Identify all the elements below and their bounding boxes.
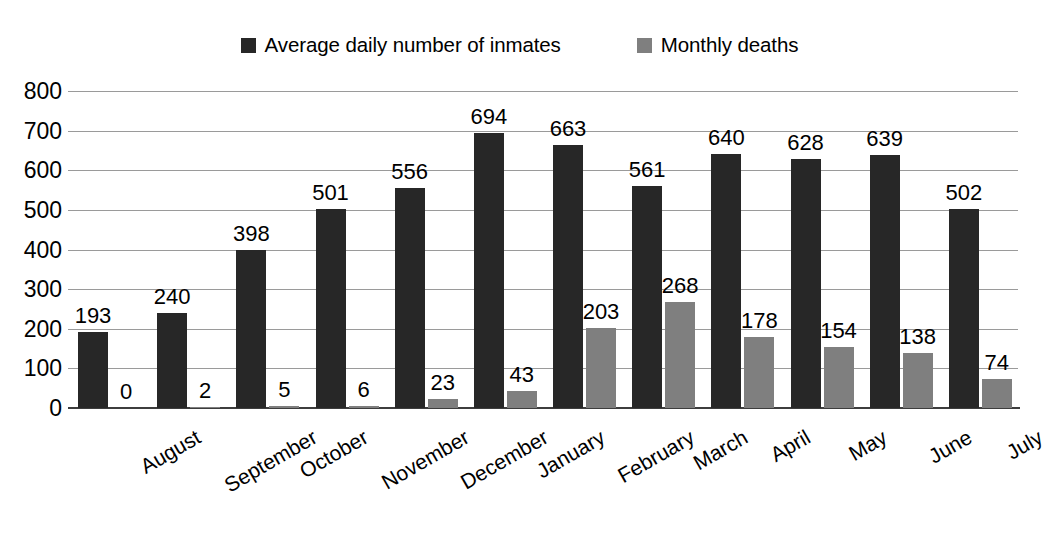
bar-group: 663203 xyxy=(553,91,616,408)
chart-legend: Average daily number of inmates Monthly … xyxy=(0,30,1039,60)
bar-value-label-deaths: 43 xyxy=(510,364,534,386)
bar-deaths xyxy=(586,328,616,408)
y-axis: 0100200300400500600700800 xyxy=(0,91,62,408)
bar-inmates xyxy=(553,145,583,408)
bar-group: 69443 xyxy=(474,91,537,408)
legend-label-inmates: Average daily number of inmates xyxy=(265,35,561,56)
bar-inmates xyxy=(949,209,979,408)
bar-value-label-inmates: 398 xyxy=(233,223,270,245)
x-axis-category-label: June xyxy=(925,426,975,467)
bar-inmates xyxy=(791,159,821,408)
bar-value-label-inmates: 556 xyxy=(391,161,428,183)
bar-value-label-inmates: 639 xyxy=(866,128,903,150)
bar-value-label-deaths: 5 xyxy=(278,379,290,401)
y-axis-tick-label: 0 xyxy=(4,397,62,420)
bar-value-label-inmates: 193 xyxy=(75,305,112,327)
bar-value-label-inmates: 561 xyxy=(629,159,666,181)
y-axis-tick-label: 200 xyxy=(4,317,62,340)
bar-inmates xyxy=(632,186,662,408)
bar-value-label-deaths: 178 xyxy=(741,310,778,332)
bar-deaths xyxy=(744,337,774,408)
bar-value-label-deaths: 2 xyxy=(199,380,211,402)
y-axis-tick-label: 400 xyxy=(4,238,62,261)
bar-deaths xyxy=(507,391,537,408)
y-axis-tick-label: 100 xyxy=(4,357,62,380)
bar-group: 561268 xyxy=(632,91,695,408)
bar-value-label-deaths: 74 xyxy=(985,352,1009,374)
legend-swatch-deaths xyxy=(637,38,652,53)
bar-value-label-inmates: 628 xyxy=(787,132,824,154)
bar-group: 50274 xyxy=(949,91,1012,408)
bar-value-label-deaths: 6 xyxy=(357,379,369,401)
legend-swatch-inmates xyxy=(241,38,256,53)
x-axis-category-label: August xyxy=(136,426,203,477)
legend-label-deaths: Monthly deaths xyxy=(661,35,799,56)
bar-deaths xyxy=(665,302,695,408)
x-axis-category-label: July xyxy=(1003,426,1046,463)
bar-deaths xyxy=(428,399,458,408)
y-axis-tick-label: 300 xyxy=(4,278,62,301)
y-axis-tick-label: 500 xyxy=(4,198,62,221)
y-axis-tick-label: 800 xyxy=(4,80,62,103)
bar-value-label-inmates: 501 xyxy=(312,182,349,204)
bar-inmates xyxy=(395,188,425,408)
bar-value-label-deaths: 0 xyxy=(120,381,132,403)
legend-item-inmates: Average daily number of inmates xyxy=(241,35,561,56)
x-axis-category-label: March xyxy=(689,426,750,473)
bar-deaths xyxy=(982,379,1012,408)
bar-inmates xyxy=(474,133,504,408)
plot-area: 1930240239855016556236944366320356126864… xyxy=(68,91,1018,408)
x-axis-category-label: May xyxy=(845,426,890,464)
bar-group: 3985 xyxy=(236,91,299,408)
bar-group: 628154 xyxy=(791,91,854,408)
bar-value-label-deaths: 154 xyxy=(820,320,857,342)
y-axis-tick-label: 700 xyxy=(4,119,62,142)
bar-value-label-deaths: 203 xyxy=(583,301,620,323)
bar-value-label-deaths: 23 xyxy=(430,372,454,394)
bar-group: 640178 xyxy=(711,91,774,408)
bar-group: 639138 xyxy=(870,91,933,408)
bar-inmates xyxy=(236,250,266,408)
bar-inmates xyxy=(711,154,741,408)
bar-inmates xyxy=(870,155,900,408)
bar-value-label-inmates: 694 xyxy=(470,106,507,128)
bar-value-label-inmates: 502 xyxy=(945,182,982,204)
bar-value-label-inmates: 240 xyxy=(154,286,191,308)
bar-group: 2402 xyxy=(157,91,220,408)
bar-deaths xyxy=(903,353,933,408)
y-axis-tick-label: 600 xyxy=(4,159,62,182)
bar-deaths xyxy=(824,347,854,408)
x-axis-category-label: November xyxy=(378,426,472,493)
bar-value-label-deaths: 268 xyxy=(662,275,699,297)
bar-value-label-inmates: 663 xyxy=(550,118,587,140)
x-axis-category-label: April xyxy=(766,426,813,465)
legend-item-deaths: Monthly deaths xyxy=(637,35,799,56)
bar-inmates xyxy=(316,209,346,408)
bar-value-label-deaths: 138 xyxy=(899,326,936,348)
bar-group: 1930 xyxy=(78,91,141,408)
x-axis-category-label: February xyxy=(614,426,697,486)
x-axis-labels: AugustSeptemberOctoberNovemberDecemberJa… xyxy=(68,408,1018,554)
bar-value-label-inmates: 640 xyxy=(708,127,745,149)
bar-inmates xyxy=(78,332,108,408)
bar-inmates xyxy=(157,313,187,408)
bar-group: 5016 xyxy=(316,91,379,408)
bar-group: 55623 xyxy=(395,91,458,408)
